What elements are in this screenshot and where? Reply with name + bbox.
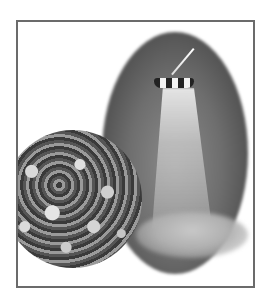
spray-nozzle-icon: [154, 78, 194, 88]
image-frame: [16, 20, 255, 288]
powder-pile: [136, 212, 248, 258]
granule-micrograph: [16, 130, 142, 268]
